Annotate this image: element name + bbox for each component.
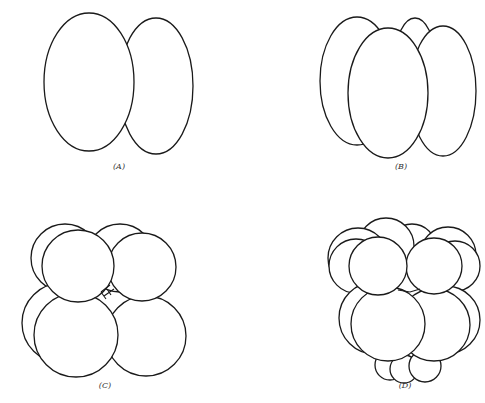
figure-a-two-ellipsoids [44,13,193,154]
figure-a-label: (A) [113,162,125,171]
figure-c-sphere-cluster [22,224,186,377]
sphere-5 [34,293,118,377]
sphere-15 [349,237,407,295]
diagram-canvas [0,0,485,403]
figure-c-label: (C) [99,381,111,390]
sphere-7 [42,230,114,302]
sphere-14 [406,238,462,294]
figure-d-label: (D) [399,381,412,390]
ellipsoid-2 [44,13,134,151]
figure-b-label: (B) [395,162,407,171]
figure-d-sphere-cluster [328,218,480,383]
figure-b-four-ellipsoids [320,17,476,158]
ellipsoid-4 [348,28,428,158]
sphere-13 [351,287,425,361]
sphere-6 [108,233,176,301]
